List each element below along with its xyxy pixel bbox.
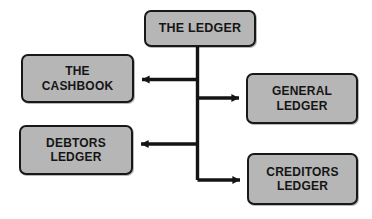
node-general-ledger-label: GENERAL LEDGER bbox=[268, 84, 336, 112]
node-the-ledger[interactable]: THE LEDGER bbox=[144, 10, 256, 47]
node-debtors-ledger[interactable]: DEBTORS LEDGER bbox=[19, 125, 133, 175]
node-the-cashbook-label: THE CASHBOOK bbox=[38, 64, 118, 92]
node-the-cashbook[interactable]: THE CASHBOOK bbox=[21, 54, 134, 103]
ledger-diagram: THE LEDGER THE CASHBOOK GENERAL LEDGER D… bbox=[0, 0, 372, 219]
node-the-ledger-label: THE LEDGER bbox=[155, 21, 246, 36]
node-creditors-ledger[interactable]: CREDITORS LEDGER bbox=[247, 153, 358, 205]
node-debtors-ledger-label: DEBTORS LEDGER bbox=[42, 136, 110, 164]
node-general-ledger[interactable]: GENERAL LEDGER bbox=[246, 73, 358, 124]
node-creditors-ledger-label: CREDITORS LEDGER bbox=[262, 165, 342, 193]
